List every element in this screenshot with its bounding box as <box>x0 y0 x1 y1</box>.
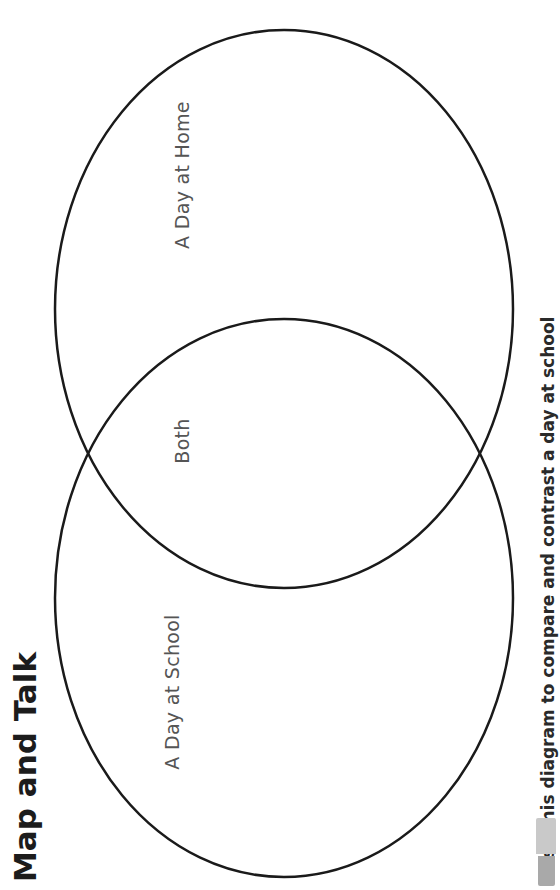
venn-circle-home <box>55 30 513 588</box>
venn-label-home: A Day at Home <box>170 75 194 275</box>
marker-cap <box>536 818 556 854</box>
marker-icon <box>536 818 556 888</box>
page-title: Map and Talk <box>7 647 43 887</box>
venn-label-both: Both <box>170 401 194 481</box>
marker-body <box>538 856 555 886</box>
venn-label-school: A Day at School <box>160 592 184 792</box>
instruction-text: Use this diagram to compare and contrast… <box>536 252 560 872</box>
venn-circle-school <box>55 319 513 877</box>
